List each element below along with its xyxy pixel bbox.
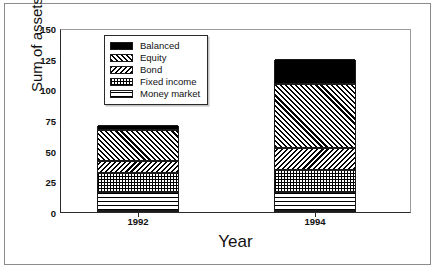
bar-1992-segment-equity	[98, 130, 178, 162]
legend-label-fixed-income: Fixed income	[140, 76, 197, 88]
legend-label-balanced: Balanced	[140, 40, 180, 52]
legend-item-money-market[interactable]: Money market	[110, 88, 200, 100]
stacked-bar-1994[interactable]	[274, 60, 356, 212]
bar-1994-segment-bond	[275, 148, 355, 170]
chart-legend: Balanced Equity Bond Fixed income Money …	[104, 35, 208, 105]
bar-1994-segment-balanced	[275, 59, 355, 83]
y-tick-label-150: 150	[16, 24, 56, 35]
stacked-bar-1992[interactable]	[97, 126, 179, 212]
legend-item-bond[interactable]: Bond	[110, 64, 200, 76]
legend-swatch-bond-icon	[110, 66, 133, 74]
y-axis-tick-labels: 150 125 100 75 50 25 0	[12, 29, 56, 213]
bar-1992-segment-money-market	[98, 192, 178, 211]
legend-label-money-market: Money market	[140, 88, 200, 100]
bar-1994-segment-fixed-income	[275, 170, 355, 192]
y-tick-label-100: 100	[16, 85, 56, 96]
bar-1992-segment-fixed-income	[98, 173, 178, 191]
bar-1994-segment-equity	[275, 84, 355, 148]
legend-swatch-money-market-icon	[110, 90, 133, 98]
bar-1992-segment-balanced	[98, 125, 178, 130]
bar-1994-segment-money-market	[275, 192, 355, 211]
x-axis-label: Year	[60, 232, 411, 252]
legend-swatch-equity-icon	[110, 54, 133, 62]
legend-item-balanced[interactable]: Balanced	[110, 40, 200, 52]
y-tick-label-0: 0	[16, 208, 56, 219]
y-tick-label-75: 75	[16, 116, 56, 127]
y-tick-label-50: 50	[16, 146, 56, 157]
legend-label-equity: Equity	[140, 52, 166, 64]
y-tick-label-25: 25	[16, 177, 56, 188]
legend-item-equity[interactable]: Equity	[110, 52, 200, 64]
bar-1992-segment-bond	[98, 161, 178, 173]
x-tick-label-1994: 1994	[304, 216, 325, 227]
legend-label-bond: Bond	[140, 64, 162, 76]
x-tick-label-1992: 1992	[127, 216, 148, 227]
chart-figure: Sum of assets 150 125 100 75 50 25 0	[0, 0, 435, 269]
legend-swatch-fixed-income-icon	[110, 78, 133, 86]
y-tick-label-125: 125	[16, 54, 56, 65]
legend-swatch-balanced-icon	[110, 42, 133, 50]
legend-item-fixed-income[interactable]: Fixed income	[110, 76, 200, 88]
